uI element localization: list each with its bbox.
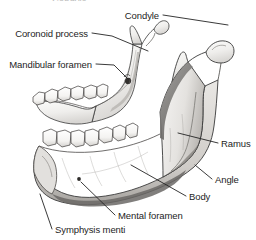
label-coronoid-process: Coronoid process — [15, 29, 88, 39]
label-text: Symphysis menti — [55, 224, 125, 235]
lower-tooth-row — [43, 123, 138, 147]
label-text: Condyle — [125, 10, 159, 21]
mandible-figure: Condyle — [0, 0, 256, 240]
far-coronoid-process — [130, 26, 142, 44]
near-condyle-neck — [218, 63, 221, 80]
far-condyle — [154, 21, 169, 35]
leader-mandibular-foramen — [96, 64, 128, 79]
label-body: Body — [189, 192, 210, 202]
far-condyle-neck — [146, 33, 155, 46]
label-text: Mental foramen — [118, 210, 183, 221]
label-angle: Angle — [215, 175, 239, 185]
label-text: Coronoid process — [15, 28, 88, 39]
label-text: Body — [189, 191, 210, 202]
leader-angle — [195, 165, 212, 179]
far-body — [36, 101, 96, 124]
label-text: Ramus — [221, 138, 251, 149]
label-mandibular-foramen: Mandibular foramen — [9, 60, 92, 70]
mental-foramen — [77, 177, 81, 181]
label-text: Mandibular foramen — [9, 59, 92, 70]
leader-condyle — [163, 15, 228, 25]
leader-symphysis-menti — [40, 194, 52, 229]
near-condyle — [206, 41, 234, 63]
label-symphysis-menti: Symphysis menti — [55, 225, 125, 235]
upper-tooth-row — [33, 84, 108, 105]
far-mandibular-notch — [142, 29, 154, 44]
symphysis-menti-region — [34, 146, 57, 194]
label-text: Angle — [215, 174, 239, 185]
label-ramus: Ramus — [221, 139, 251, 149]
far-ramus — [92, 44, 142, 122]
label-condyle: Condyle — [125, 11, 159, 21]
near-mandibular-notch — [188, 52, 206, 62]
label-mental-foramen: Mental foramen — [118, 211, 183, 221]
